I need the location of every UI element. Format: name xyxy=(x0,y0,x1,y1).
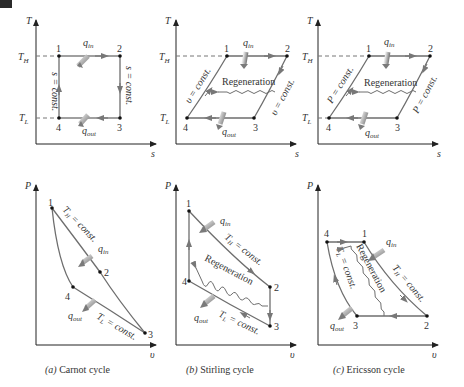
svg-text:υ: υ xyxy=(150,349,155,360)
svg-text:3: 3 xyxy=(148,329,153,340)
t-axis-label: T xyxy=(165,15,172,26)
carnot-ts-diagram: T s TH TL 1 2 3 4 qin qout s = const. s … xyxy=(18,15,156,159)
svg-text:qin: qin xyxy=(384,36,395,49)
ericsson-ts-diagram: T s TH TL 1 2 3 4 qin qout Regeneration … xyxy=(302,15,441,159)
svg-text:4: 4 xyxy=(183,122,188,133)
s-axis-label: s xyxy=(295,148,299,159)
svg-text:TL: TL xyxy=(302,112,312,126)
carnot-ts-cycle xyxy=(59,56,120,118)
svg-text:1: 1 xyxy=(362,228,367,239)
svg-text:P: P xyxy=(164,180,171,191)
svg-text:P: P xyxy=(306,180,313,191)
svg-text:qout: qout xyxy=(330,320,345,333)
svg-text:T: T xyxy=(307,15,314,26)
svg-text:TL = const.: TL = const. xyxy=(217,308,262,338)
q-in-label: qin xyxy=(83,37,94,50)
svg-text:4: 4 xyxy=(326,122,331,133)
svg-text:2: 2 xyxy=(428,43,433,54)
svg-text:2: 2 xyxy=(285,43,290,54)
right-isentrope-label: s = const. xyxy=(124,66,135,105)
svg-text:υ: υ xyxy=(290,349,295,360)
svg-text:1: 1 xyxy=(186,198,191,209)
s-axis-label: s xyxy=(151,148,155,159)
stirling-ts-diagram: T s s TH TL 1 2 3 4 qin qout Regeneratio… xyxy=(159,15,299,159)
left-isentrope-label: s = const. xyxy=(50,72,61,111)
svg-text:TH: TH xyxy=(159,51,171,65)
svg-text:1: 1 xyxy=(48,197,53,208)
svg-text:(c) Ericsson cycle: (c) Ericsson cycle xyxy=(333,364,405,376)
svg-text:qin: qin xyxy=(98,243,109,256)
svg-text:3: 3 xyxy=(395,122,400,133)
point-1: 1 xyxy=(56,43,61,54)
svg-text:s: s xyxy=(437,148,441,159)
svg-text:qout: qout xyxy=(365,127,380,140)
svg-text:TL: TL xyxy=(160,112,170,126)
svg-text:P: P xyxy=(24,180,31,191)
svg-text:qin: qin xyxy=(220,215,231,228)
svg-text:TH = const.: TH = const. xyxy=(60,204,100,245)
svg-text:1: 1 xyxy=(224,43,229,54)
svg-text:4: 4 xyxy=(182,276,187,287)
ericsson-pv-diagram: P υ 1 2 3 4 qin qout TH = const. TL = co… xyxy=(306,180,438,376)
point-4: 4 xyxy=(56,122,61,133)
svg-text:2: 2 xyxy=(424,320,429,331)
svg-text:υ: υ xyxy=(432,349,437,360)
svg-text:qout: qout xyxy=(194,312,209,325)
svg-text:4: 4 xyxy=(324,228,329,239)
thermo-cycles-figure: T s TH TL 1 2 3 4 qin qout s = const. s … xyxy=(0,0,464,387)
q-out-label: qout xyxy=(82,125,97,138)
tl-label: TL xyxy=(19,112,29,126)
svg-text:qin: qin xyxy=(386,236,397,249)
point-3: 3 xyxy=(117,122,122,133)
svg-text:qout: qout xyxy=(222,126,237,139)
svg-text:qout: qout xyxy=(68,310,83,323)
svg-text:1: 1 xyxy=(366,43,371,54)
carnot-pv-diagram: P υ 1 2 3 4 TH = const. TL = const. qin … xyxy=(24,180,156,376)
svg-text:(b) Stirling cycle: (b) Stirling cycle xyxy=(186,364,254,376)
regeneration-label: Regeneration xyxy=(222,76,275,87)
svg-text:3: 3 xyxy=(253,122,258,133)
t-axis-label: T xyxy=(26,15,33,26)
svg-text:TH: TH xyxy=(302,51,314,65)
point-2: 2 xyxy=(117,43,122,54)
th-label: TH xyxy=(18,51,30,65)
svg-text:2: 2 xyxy=(274,282,279,293)
svg-text:4: 4 xyxy=(65,291,70,302)
svg-text:(a) Carnot cycle: (a) Carnot cycle xyxy=(45,364,111,376)
svg-text:qin: qin xyxy=(243,37,254,50)
svg-text:3: 3 xyxy=(353,320,358,331)
svg-text:TH = const.: TH = const. xyxy=(390,262,428,304)
svg-text:2: 2 xyxy=(104,267,109,278)
stirling-pv-diagram: P υ 1 2 3 4 qin qout TH = const. TL = co… xyxy=(164,180,296,376)
svg-text:3: 3 xyxy=(274,321,279,332)
svg-text:Regeneration: Regeneration xyxy=(364,77,417,88)
regeneration-wave xyxy=(218,91,275,94)
